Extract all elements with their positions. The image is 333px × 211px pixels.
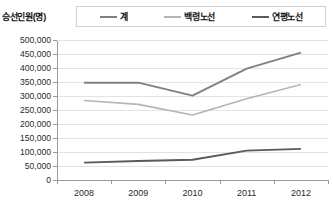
y-tick-label: 100,000 xyxy=(20,147,51,157)
y-axis-title: 승선인원(명) xyxy=(2,10,46,23)
legend-label-baengnyeong: 백령노선 xyxy=(184,10,214,23)
x-tick-label: 2010 xyxy=(182,188,202,198)
y-tick-label: 500,000 xyxy=(20,35,51,45)
legend-label-yeonpyeong: 연평노선 xyxy=(272,10,302,23)
y-tick-label: 450,000 xyxy=(20,49,51,59)
x-tick-label: 2012 xyxy=(291,188,311,198)
x-tick-labels-group: 20082009201020112012 xyxy=(74,188,311,198)
y-tick-label: 200,000 xyxy=(20,119,51,129)
series-lines-group xyxy=(84,53,301,163)
plot-area-wrapper: 050,000100,000150,000200,000250,000300,0… xyxy=(0,30,333,211)
legend-label-total: 계 xyxy=(120,10,128,23)
plot-svg: 050,000100,000150,000200,000250,000300,0… xyxy=(0,30,333,211)
legend-item-yeonpyeong[interactable]: 연평노선 xyxy=(252,10,302,23)
series-line-1 xyxy=(84,53,301,96)
y-tick-label: 400,000 xyxy=(20,63,51,73)
series-line-3 xyxy=(84,149,301,163)
gridlines-group xyxy=(57,41,328,167)
x-tick-label: 2011 xyxy=(237,188,256,198)
legend-swatch-yeonpyeong xyxy=(252,16,269,18)
y-tick-label: 350,000 xyxy=(20,77,51,87)
y-tick-label: 50,000 xyxy=(25,161,52,171)
x-tick-label: 2009 xyxy=(128,188,148,198)
legend-item-baengnyeong[interactable]: 백령노선 xyxy=(164,10,214,23)
y-tick-label: 150,000 xyxy=(20,133,51,143)
legend-swatch-baengnyeong xyxy=(164,16,181,18)
legend-item-total[interactable]: 계 xyxy=(100,10,128,23)
y-tick-label: 250,000 xyxy=(20,105,51,115)
legend-swatch-total xyxy=(100,16,117,18)
y-tick-label: 0 xyxy=(46,175,51,185)
chart-legend: 계 백령노선 연평노선 xyxy=(76,6,326,27)
chart-container: 승선인원(명) 계 백령노선 연평노선 050,000100,000150,00… xyxy=(0,0,333,211)
y-tick-marks-group xyxy=(53,41,57,181)
y-tick-label: 300,000 xyxy=(20,91,51,101)
y-tick-labels-group: 050,000100,000150,000200,000250,000300,0… xyxy=(20,35,51,185)
x-tick-label: 2008 xyxy=(74,188,94,198)
